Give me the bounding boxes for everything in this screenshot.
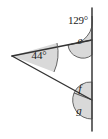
angle-f-label: f xyxy=(74,83,86,94)
apex-angle-label: 44° xyxy=(25,50,53,61)
angle-diagram-figure: 129° 44° e f g xyxy=(0,0,108,139)
top-angle-label: 129° xyxy=(61,15,95,26)
angle-g-label: g xyxy=(73,105,85,116)
angle-e-label: e xyxy=(74,35,86,46)
